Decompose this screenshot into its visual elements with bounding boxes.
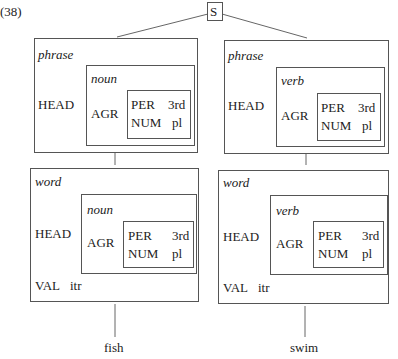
num-value: pl — [362, 118, 372, 133]
agr-label: AGR — [91, 106, 118, 121]
num-value: pl — [362, 246, 372, 261]
example-number: (38) — [0, 4, 22, 19]
agr-avm: PER 3rd NUM pl — [317, 93, 381, 141]
agr-avm: PER 3rd NUM pl — [313, 221, 384, 268]
leaf-swim: swim — [290, 340, 318, 355]
type-label: phrase — [228, 48, 263, 63]
num-value: pl — [172, 246, 182, 261]
val-value: itr — [70, 278, 82, 293]
num-label: NUM — [321, 118, 351, 133]
right-word-avm: word HEAD verb AGR PER 3rd NUM pl VAL it… — [218, 170, 389, 304]
left-word-avm: word HEAD noun AGR PER 3rd NUM pl VAL it… — [30, 168, 199, 302]
num-label: NUM — [128, 246, 158, 261]
num-label: NUM — [318, 246, 348, 261]
head-avm: verb AGR PER 3rd NUM pl — [270, 195, 388, 275]
head-type: verb — [276, 203, 299, 218]
agr-label: AGR — [87, 235, 114, 250]
head-label: HEAD — [223, 229, 259, 244]
left-phrase-avm: phrase HEAD noun AGR PER 3rd NUM pl — [34, 38, 198, 153]
per-label: PER — [321, 100, 345, 115]
head-avm: noun AGR PER 3rd NUM pl — [81, 194, 197, 274]
per-value: 3rd — [168, 97, 185, 112]
head-label: HEAD — [228, 98, 264, 113]
type-label: word — [35, 174, 61, 189]
agr-avm: PER 3rd NUM pl — [127, 90, 191, 139]
per-value: 3rd — [358, 100, 375, 115]
right-phrase-avm: phrase HEAD verb AGR PER 3rd NUM pl — [224, 40, 389, 154]
head-avm: noun AGR PER 3rd NUM pl — [86, 65, 195, 146]
per-value: 3rd — [362, 228, 379, 243]
root-node: S — [207, 2, 223, 21]
head-label: HEAD — [38, 97, 74, 112]
leaf-fish: fish — [104, 340, 124, 355]
num-label: NUM — [131, 115, 161, 130]
head-avm: verb AGR PER 3rd NUM pl — [276, 67, 385, 147]
per-label: PER — [128, 228, 152, 243]
head-label: HEAD — [35, 226, 71, 241]
per-label: PER — [131, 97, 155, 112]
head-type: noun — [91, 71, 117, 86]
head-type: noun — [87, 202, 113, 217]
type-label: phrase — [38, 47, 73, 62]
agr-label: AGR — [281, 108, 308, 123]
agr-avm: PER 3rd NUM pl — [123, 221, 194, 268]
num-value: pl — [172, 115, 182, 130]
per-label: PER — [318, 228, 342, 243]
val-value: itr — [258, 280, 270, 295]
head-type: verb — [281, 73, 304, 88]
per-value: 3rd — [172, 228, 189, 243]
type-label: word — [223, 175, 249, 190]
val-label: VAL — [223, 280, 248, 295]
root-label: S — [210, 4, 217, 19]
agr-label: AGR — [276, 236, 303, 251]
val-label: VAL — [35, 278, 60, 293]
